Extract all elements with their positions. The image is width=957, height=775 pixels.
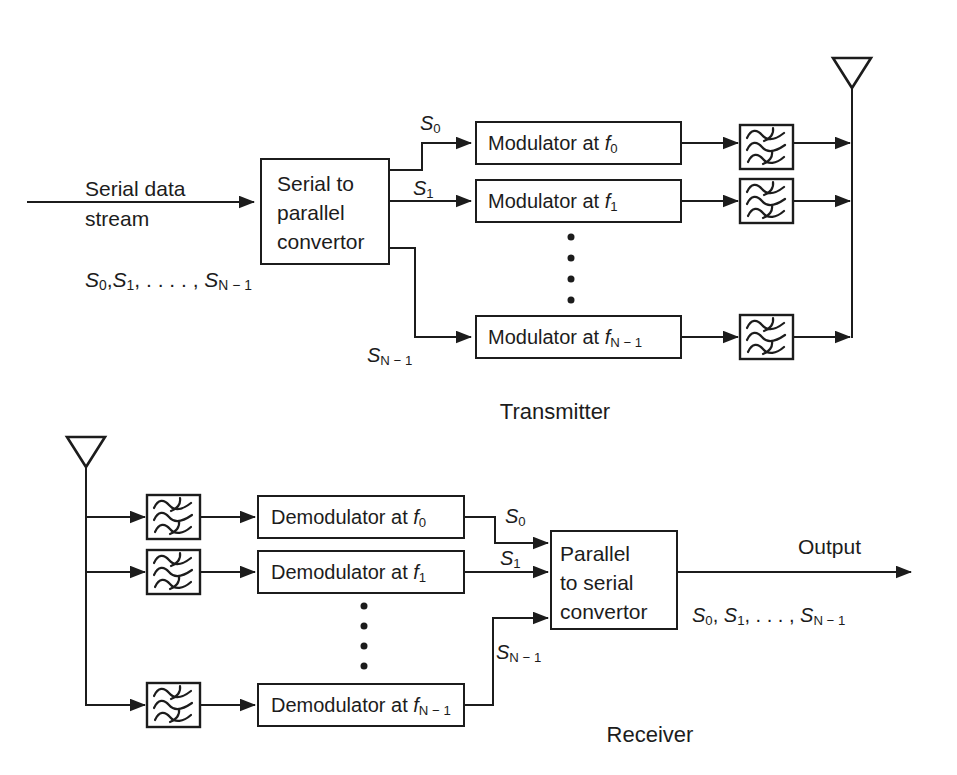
tx-vertical-ellipsis	[568, 234, 575, 304]
label-sub: 1	[737, 613, 744, 628]
label-text: S	[367, 344, 380, 366]
label-text: Demodulator at	[271, 561, 413, 583]
wire-sn-branch	[390, 248, 471, 337]
box-line: to serial	[560, 568, 674, 597]
label-sub: 0	[705, 613, 712, 628]
serial-to-parallel-convertor-box: Serial to parallel convertor	[260, 158, 390, 265]
rx-signal-sn-label: SN − 1	[496, 641, 541, 664]
label-sub: 0	[433, 121, 440, 136]
tx-signal-s0-label: S0	[420, 112, 441, 135]
label-text: , . . . . ,	[134, 268, 204, 291]
label-sub: 0	[419, 515, 426, 530]
modulator-f1-box: Modulator at f1	[475, 179, 682, 223]
label-text: Demodulator at	[271, 694, 413, 716]
tx-bandpass-filter-icon-0	[740, 125, 793, 169]
label-text: S	[692, 604, 705, 626]
modulator-label: Modulator at f1	[488, 190, 618, 213]
label-text: Modulator at	[488, 132, 605, 154]
label-sub: N − 1	[419, 703, 451, 718]
label-sub: 1	[127, 277, 135, 293]
tx-antenna-icon	[833, 58, 871, 88]
wire-s0-branch	[390, 143, 471, 170]
modulator-f0-box: Modulator at f0	[475, 121, 682, 165]
label-text: S	[113, 268, 127, 291]
transmitter-caption: Transmitter	[455, 399, 655, 425]
demodulator-label: Demodulator at fN − 1	[271, 694, 451, 717]
label-text: Demodulator at	[271, 506, 413, 528]
tx-bandpass-filter-icon-n	[740, 315, 793, 359]
label-sub: 0	[518, 514, 525, 529]
label-sub: 0	[99, 277, 107, 293]
label-sub: 1	[419, 570, 426, 585]
diagram-wires	[0, 0, 957, 775]
label-sub: N − 1	[813, 613, 845, 628]
ofdm-fdm-block-diagram: Serial data stream Serial to parallel co…	[0, 0, 957, 775]
modulator-fn-box: Modulator at fN − 1	[475, 315, 682, 359]
tx-stream-sequence-label: S0,S1, . . . . , SN − 1	[85, 268, 252, 292]
label-text: S	[420, 112, 433, 134]
serial-data-stream-label: Serial data stream	[85, 174, 185, 234]
label-text: S	[724, 604, 737, 626]
label-text: Modulator at	[488, 326, 605, 348]
rx-bandpass-filter-icon-0	[147, 495, 200, 539]
label-text: S	[413, 177, 426, 199]
receiver-caption: Receiver	[570, 722, 730, 748]
tx-signal-sn-label: SN − 1	[367, 344, 412, 367]
tx-signal-s1-label: S1	[413, 177, 434, 200]
label-text: S	[500, 547, 513, 569]
label-sub: 1	[426, 186, 433, 201]
label-sub: 1	[610, 199, 617, 214]
rx-signal-s0-label: S0	[505, 505, 526, 528]
label-sub: 0	[610, 141, 617, 156]
label-sub: N − 1	[509, 650, 541, 665]
modulator-label: Modulator at fN − 1	[488, 326, 642, 349]
label-text: Modulator at	[488, 190, 605, 212]
modulator-label: Modulator at f0	[488, 132, 618, 155]
demodulator-label: Demodulator at f0	[271, 506, 426, 529]
rx-stream-sequence-label: S0, S1, . . . , SN − 1	[692, 604, 845, 627]
output-label: Output	[798, 535, 861, 559]
tx-bandpass-filter-icon-1	[740, 179, 793, 223]
rx-antenna-icon	[67, 437, 105, 467]
label-text: ,	[713, 604, 724, 626]
label-text: S	[85, 268, 99, 291]
demodulator-f0-box: Demodulator at f0	[257, 495, 465, 539]
label-text: , . . . ,	[745, 604, 801, 626]
rx-antenna-feed-line	[86, 467, 145, 705]
parallel-to-serial-convertor-box: Parallel to serial convertor	[550, 530, 678, 630]
box-line: convertor	[560, 597, 674, 626]
rx-bandpass-filter-icon-n	[147, 683, 200, 727]
demodulator-fn-box: Demodulator at fN − 1	[257, 683, 465, 727]
rx-bandpass-filter-icon-1	[147, 550, 200, 594]
label-sub: N − 1	[610, 335, 642, 350]
rx-signal-s1-label: S1	[500, 547, 521, 570]
demodulator-f1-box: Demodulator at f1	[257, 550, 465, 594]
label-sub: N − 1	[218, 277, 252, 293]
label-line: Serial data	[85, 177, 185, 200]
demodulator-label: Demodulator at f1	[271, 561, 426, 584]
box-line: Serial to	[277, 169, 384, 198]
label-line: stream	[85, 207, 149, 230]
label-text: S	[204, 268, 218, 291]
rx-vertical-ellipsis	[361, 603, 368, 670]
box-line: Parallel	[560, 539, 674, 568]
box-line: parallel	[277, 198, 384, 227]
label-text: S	[496, 641, 509, 663]
label-sub: 1	[513, 556, 520, 571]
label-text: S	[800, 604, 813, 626]
label-sub: N − 1	[380, 353, 412, 368]
label-text: S	[505, 505, 518, 527]
box-line: convertor	[277, 227, 384, 256]
